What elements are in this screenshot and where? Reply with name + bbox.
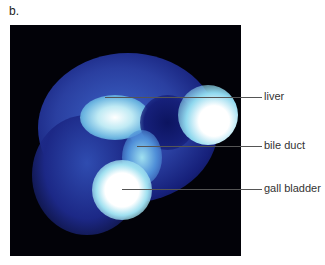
bile-duct-leader-line [137, 146, 262, 147]
gall-bladder-label: gall bladder [264, 182, 321, 194]
gall-bladder-leader-line [122, 189, 262, 190]
panel-label: b. [9, 4, 19, 18]
bile-duct-label: bile duct [264, 139, 305, 151]
liver-label: liver [264, 90, 284, 102]
scan-image [10, 25, 241, 256]
gall-bladder-region [92, 160, 152, 220]
duct-hot-spot [178, 85, 238, 145]
liver-leader-line [105, 97, 262, 98]
